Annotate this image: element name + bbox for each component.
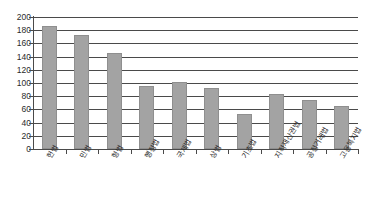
gridline	[33, 30, 358, 31]
y-tick-mark	[29, 17, 34, 18]
bar	[334, 106, 349, 149]
plot-area	[33, 17, 358, 149]
y-tick-mark	[29, 57, 34, 58]
y-tick-mark	[29, 43, 34, 44]
x-tick-mark	[228, 150, 229, 154]
x-tick-mark	[293, 150, 294, 154]
x-tick-mark	[131, 150, 132, 154]
y-tick-mark	[29, 70, 34, 71]
x-tick-mark	[98, 150, 99, 154]
y-tick-label: 80	[3, 92, 31, 101]
bar	[302, 100, 317, 150]
x-tick-mark	[326, 150, 327, 154]
y-tick-mark	[29, 96, 34, 97]
bar-chart: 200180160140120100806040200 헌법민법형법행정법국제법…	[0, 0, 365, 211]
bar	[107, 53, 122, 149]
gridline	[33, 17, 358, 18]
y-axis-tick-labels: 200180160140120100806040200	[0, 0, 31, 211]
bar	[204, 88, 219, 149]
y-tick-mark	[29, 149, 34, 150]
y-tick-mark	[29, 30, 34, 31]
x-tick-mark	[163, 150, 164, 154]
y-tick-label: 200	[3, 13, 31, 22]
bar	[74, 35, 89, 149]
y-tick-mark	[29, 83, 34, 84]
y-tick-label: 140	[3, 52, 31, 61]
bar	[237, 114, 252, 149]
y-tick-label: 180	[3, 26, 31, 35]
x-tick-mark	[261, 150, 262, 154]
y-tick-mark	[29, 109, 34, 110]
y-tick-label: 40	[3, 118, 31, 127]
bar	[42, 26, 57, 149]
y-tick-mark	[29, 123, 34, 124]
x-tick-mark	[358, 150, 359, 154]
y-tick-label: 20	[3, 132, 31, 141]
bar	[172, 82, 187, 149]
bar	[139, 86, 154, 149]
y-tick-label: 160	[3, 39, 31, 48]
y-tick-mark	[29, 136, 34, 137]
y-tick-label: 100	[3, 79, 31, 88]
y-tick-label: 0	[3, 145, 31, 154]
x-tick-mark	[66, 150, 67, 154]
y-tick-label: 120	[3, 66, 31, 75]
x-tick-mark	[196, 150, 197, 154]
bar	[269, 94, 284, 149]
y-tick-label: 60	[3, 105, 31, 114]
